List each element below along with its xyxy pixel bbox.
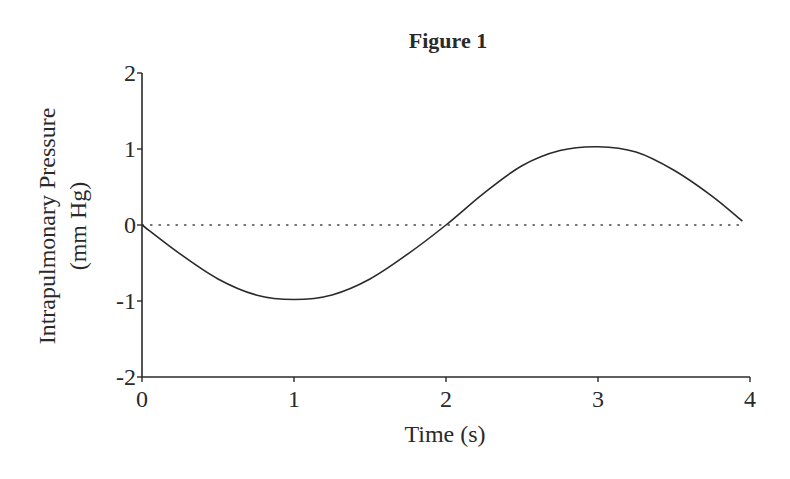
- x-tick-label: 1: [288, 386, 300, 412]
- x-axis-label: Time (s): [404, 421, 485, 447]
- plot-area: -2-101201234: [116, 60, 756, 412]
- x-tick-label: 0: [136, 386, 148, 412]
- y-tick-label: -1: [116, 288, 136, 314]
- x-tick-label: 3: [592, 386, 604, 412]
- y-axis-label-line-1: Intrapulmonary Pressure: [34, 108, 60, 345]
- pressure-curve: [142, 147, 742, 300]
- y-tick-label: 0: [124, 212, 136, 238]
- line-chart: Figure 1 Intrapulmonary Pressure (mm Hg)…: [0, 0, 790, 479]
- y-tick-label: 1: [124, 136, 136, 162]
- y-tick-label: 2: [124, 60, 136, 86]
- y-tick-label: -2: [116, 364, 136, 390]
- x-tick-label: 4: [744, 386, 756, 412]
- chart-title: Figure 1: [409, 28, 487, 53]
- y-axis-label-line-2: (mm Hg): [65, 182, 91, 271]
- x-tick-label: 2: [440, 386, 452, 412]
- y-axis-label: Intrapulmonary Pressure (mm Hg): [34, 108, 91, 345]
